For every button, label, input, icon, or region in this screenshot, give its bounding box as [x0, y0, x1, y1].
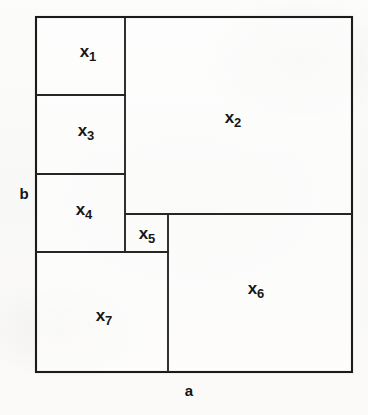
cell-label-x7-sub: 7 — [105, 313, 112, 328]
cell-label-x7: x7 — [96, 306, 113, 326]
cell-label-x2-sub: 2 — [234, 115, 241, 130]
cell-label-x6: x6 — [248, 279, 265, 299]
dimension-label-b: b — [19, 185, 28, 202]
cell-label-x3: x3 — [78, 121, 95, 141]
cell-label-x1: x1 — [80, 42, 97, 62]
cell-label-x4-sub: 4 — [85, 207, 92, 222]
cell-label-x5: x5 — [139, 224, 156, 244]
cell-label-x3-sub: 3 — [87, 128, 94, 143]
dimension-label-a: a — [185, 382, 193, 399]
cell-label-x5-sub: 5 — [148, 231, 155, 246]
cell-label-x2: x2 — [225, 108, 242, 128]
cell-label-x4: x4 — [76, 200, 93, 220]
cell-label-x1-sub: 1 — [89, 49, 96, 64]
cell-label-x6-sub: 6 — [257, 286, 264, 301]
rectangle-dissection-figure: x1 x2 x3 x4 x5 x6 x7 b a — [0, 0, 368, 415]
